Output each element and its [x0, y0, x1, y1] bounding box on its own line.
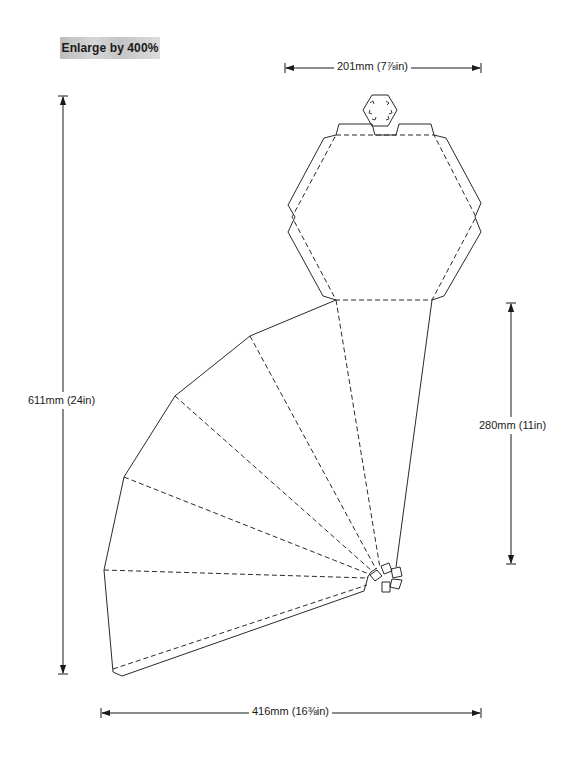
- dimension-top-label: 201mm (7⅞in): [334, 60, 411, 73]
- cone-fan: [104, 300, 432, 676]
- dimension-right-label: 280mm (11in): [478, 417, 547, 434]
- hexagon-cap: [363, 95, 397, 126]
- dimension-left-label: 611mm (24in): [27, 392, 96, 409]
- apex-tabs: [367, 563, 402, 592]
- dimension-left: [58, 96, 68, 674]
- hexagon-lid: [288, 124, 481, 300]
- dimension-bottom-label: 416mm (16⅜in): [249, 705, 332, 718]
- template-diagram: [0, 0, 576, 762]
